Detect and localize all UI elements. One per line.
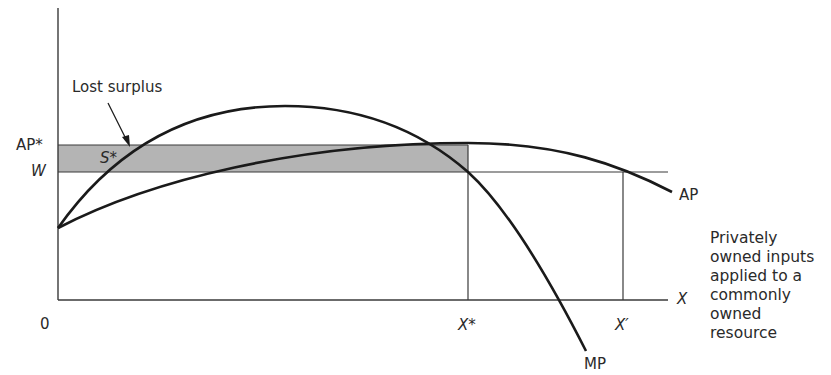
s-star-label: S*	[100, 151, 117, 166]
origin-label: 0	[40, 317, 50, 332]
caption-line: owned	[710, 305, 814, 324]
ap-curve-label: AP	[679, 188, 698, 203]
x-prime-tick-label: X′	[615, 318, 629, 333]
ap-star-tick-label: AP*	[16, 138, 43, 153]
w-tick-label: W	[31, 164, 46, 179]
lost-surplus-label: Lost surplus	[72, 80, 162, 95]
x-axis-label: X	[677, 292, 687, 307]
x-star-tick-label: X*	[458, 318, 476, 333]
caption-line: owned inputs	[710, 248, 814, 267]
caption-line: commonly	[710, 286, 814, 305]
caption-line: resource	[710, 324, 814, 343]
lost-surplus-arrow	[108, 103, 127, 141]
caption-line: applied to a	[710, 267, 814, 286]
mp-curve-label: MP	[584, 357, 606, 372]
chart-canvas	[0, 0, 831, 375]
surplus-shaded-area	[58, 145, 468, 172]
x-axis-caption: Privately owned inputs applied to a comm…	[710, 229, 814, 343]
mp-curve	[58, 106, 586, 351]
caption-line: Privately	[710, 229, 814, 248]
